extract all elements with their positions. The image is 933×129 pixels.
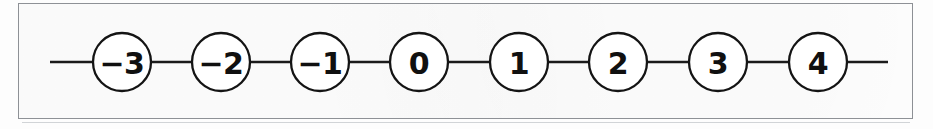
node-label: 0 [409, 46, 429, 81]
number-node-4[interactable]: 4 [789, 33, 847, 91]
node-label: 3 [708, 46, 728, 81]
number-line-canvas: −3−2−101234 [0, 0, 933, 129]
number-node-0[interactable]: 0 [390, 33, 448, 91]
node-label: −2 [198, 46, 243, 81]
number-node-neg3[interactable]: −3 [93, 33, 151, 91]
number-node-neg1[interactable]: −1 [291, 33, 349, 91]
number-node-neg2[interactable]: −2 [192, 33, 250, 91]
number-node-1[interactable]: 1 [490, 33, 548, 91]
node-label: −1 [297, 46, 342, 81]
number-node-3[interactable]: 3 [689, 33, 747, 91]
number-line-figure: −3−2−101234 [0, 0, 933, 129]
node-label: 4 [808, 46, 828, 81]
node-label: −3 [99, 46, 144, 81]
node-label: 1 [509, 46, 529, 81]
node-label: 2 [608, 46, 628, 81]
number-node-2[interactable]: 2 [589, 33, 647, 91]
